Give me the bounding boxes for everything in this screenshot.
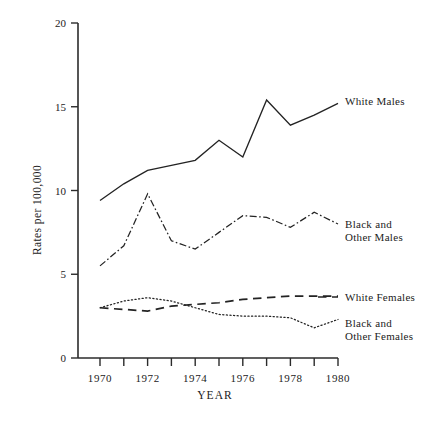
- series-line-2: [100, 296, 338, 311]
- series-line-1: [100, 194, 338, 266]
- x-tick-label: 1978: [278, 372, 302, 384]
- x-tick-group: 197019721974197619781980: [88, 358, 350, 384]
- legend-label-1: Black and: [345, 218, 392, 230]
- series-group: [100, 100, 338, 328]
- series-line-0: [100, 100, 338, 201]
- y-tick-label: 15: [55, 101, 67, 113]
- legend-label-3: Other Females: [345, 330, 413, 342]
- x-axis-group: 197019721974197619781980: [78, 358, 350, 384]
- x-tick-label: 1976: [231, 372, 255, 384]
- legend-label-3: Black and: [345, 317, 392, 329]
- legend-label-0: White Males: [345, 95, 405, 107]
- x-tick-label: 1972: [135, 372, 159, 384]
- legend-group: White MalesBlack andOther MalesWhite Fem…: [318, 95, 415, 342]
- y-tick-group: 05101520: [55, 17, 78, 364]
- y-tick-label: 20: [55, 17, 67, 29]
- y-axis-title: Rates per 100,000: [31, 165, 44, 255]
- legend-label-1: Other Males: [345, 231, 403, 243]
- y-tick-label: 10: [55, 185, 67, 197]
- x-tick-label: 1974: [183, 372, 207, 384]
- y-tick-label: 0: [61, 352, 67, 364]
- x-tick-label: 1980: [326, 372, 350, 384]
- chart-container: 05101520 197019721974197619781980 White …: [0, 0, 448, 427]
- x-axis-title: YEAR: [197, 389, 233, 401]
- line-chart: 05101520 197019721974197619781980 White …: [0, 0, 448, 427]
- y-tick-label: 5: [61, 268, 67, 280]
- legend-label-2: White Females: [345, 291, 415, 303]
- y-axis-group: 05101520: [55, 17, 78, 364]
- x-tick-label: 1970: [88, 372, 112, 384]
